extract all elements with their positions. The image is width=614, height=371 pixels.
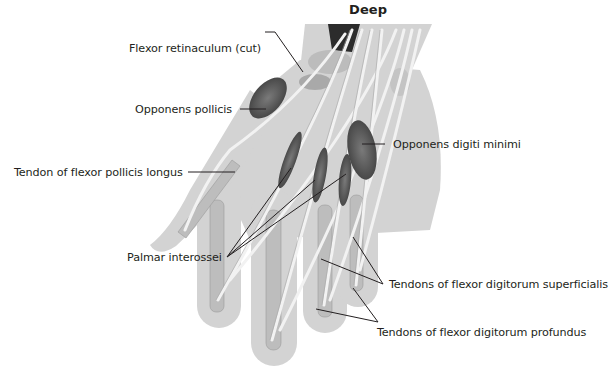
label-palmar-interossei: Palmar interossei: [127, 251, 222, 264]
label-opponens-digiti-minimi: Opponens digiti minimi: [393, 138, 521, 151]
label-flexor-retinaculum: Flexor retinaculum (cut): [129, 42, 261, 55]
hand-illustration: [0, 0, 614, 371]
label-tendons-flexor-digitorum-superficialis: Tendons of flexor digitorum superficiali…: [389, 278, 608, 291]
label-tendon-flexor-pollicis-longus: Tendon of flexor pollicis longus: [14, 166, 183, 179]
label-opponens-pollicis: Opponens pollicis: [135, 103, 232, 116]
label-tendons-flexor-digitorum-profundus: Tendons of flexor digitorum profundus: [377, 326, 586, 339]
